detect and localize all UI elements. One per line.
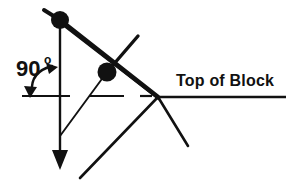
pivot-node-top bbox=[51, 11, 69, 29]
angle-label-value: 90 bbox=[16, 56, 40, 81]
mechanics-diagram: 90 o Top of Block bbox=[0, 0, 296, 184]
pivot-node-middle bbox=[98, 63, 117, 82]
angle-label-degree-symbol: o bbox=[44, 53, 51, 67]
top-of-block-label: Top of Block bbox=[176, 72, 274, 89]
diagram-canvas: 90 o Top of Block bbox=[0, 0, 296, 184]
